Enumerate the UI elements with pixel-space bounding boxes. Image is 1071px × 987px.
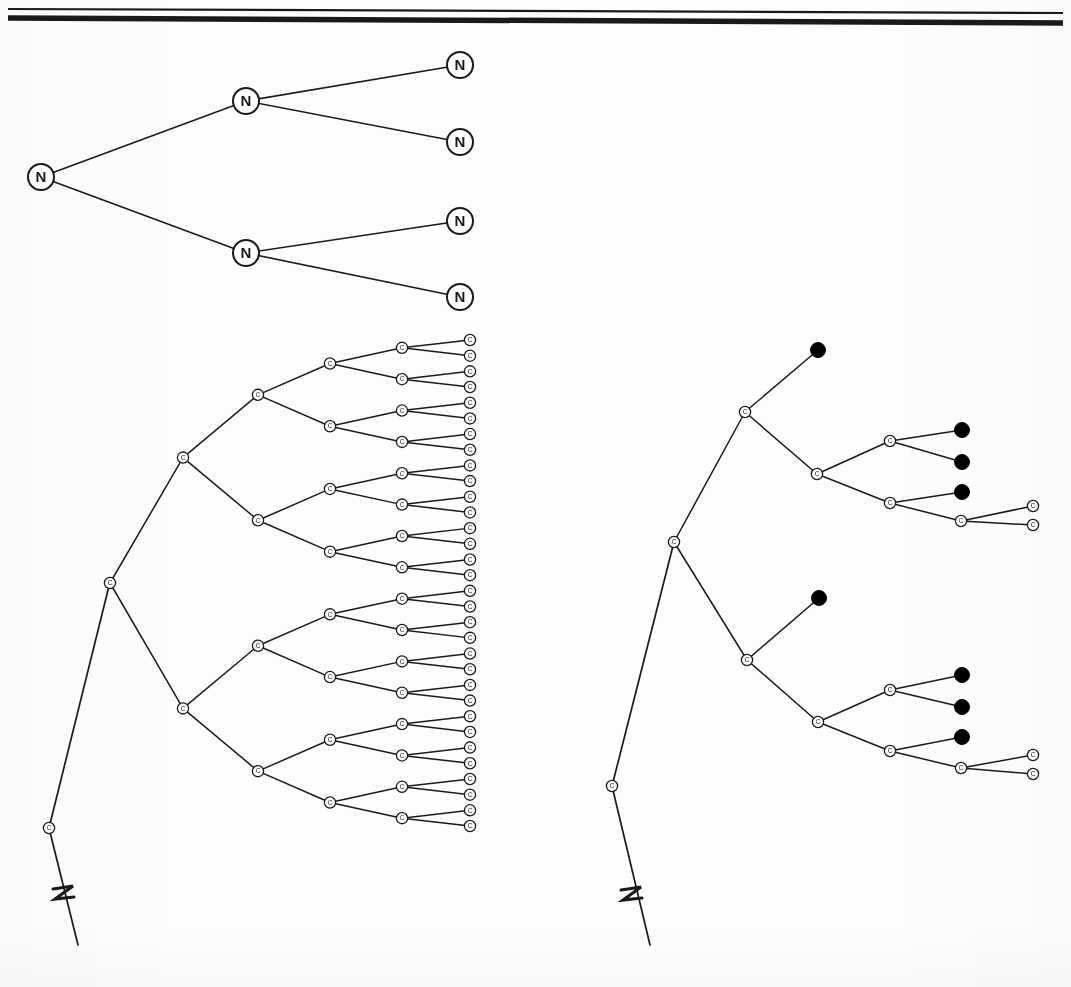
c-tree-node-label: C	[400, 564, 405, 571]
tree-edge	[402, 599, 470, 607]
c-tree-node-label: C	[256, 517, 261, 524]
tree-edge	[258, 614, 330, 645]
c-tree-node-label: C	[256, 391, 261, 398]
tree-edge	[330, 364, 402, 380]
pruned-tree-node-label: C	[672, 538, 677, 545]
n-tree-node-label: N	[455, 212, 466, 229]
tree-edge	[890, 690, 962, 707]
c-tree-node-label: C	[468, 571, 473, 578]
c-tree-node-label: C	[468, 744, 473, 751]
tree-edge	[258, 395, 330, 426]
pruned-tree-dead-node	[955, 455, 970, 470]
tree-edge	[330, 473, 402, 489]
c-tree-node-label: C	[400, 501, 405, 508]
tree-edge	[183, 708, 258, 771]
tree-edge	[402, 559, 470, 567]
tree-edge	[402, 755, 470, 763]
tree-edge	[890, 430, 962, 441]
c-tree-node-label: C	[400, 752, 405, 759]
tree-edge	[402, 724, 470, 732]
c-tree-node-label: C	[468, 822, 473, 829]
c-tree-node-label: C	[328, 360, 333, 367]
tree-edge	[330, 724, 402, 740]
tree-edge	[402, 685, 470, 693]
pruned-tree-node-label: C	[1031, 502, 1036, 509]
c-tree-node-label: C	[468, 728, 473, 735]
tree-edge	[41, 177, 246, 253]
c-tree-node-label: C	[468, 524, 473, 531]
tree-edge	[890, 492, 962, 503]
c-tree-node-label: C	[400, 626, 405, 633]
c-tree-node-label: C	[468, 775, 473, 782]
tree-edge	[402, 505, 470, 513]
c-tree-node-label: C	[468, 477, 473, 484]
c-tree-node-label: C	[181, 454, 186, 461]
tree-edge	[402, 497, 470, 505]
tree-edge	[402, 818, 470, 826]
tree-edge	[258, 646, 330, 677]
n-tree-node-label: N	[241, 244, 252, 261]
tree-edge	[183, 395, 258, 458]
pruned-tree-dead-node	[811, 343, 826, 358]
tree-edge	[402, 528, 470, 536]
n-tree-node-label: N	[241, 92, 252, 109]
tree-edge	[183, 458, 258, 521]
tree-edge	[818, 722, 890, 751]
c-tree-node-label: C	[328, 422, 333, 429]
tree-trunk	[49, 582, 110, 828]
tree-edge	[330, 599, 402, 615]
c-tree-node-label: C	[328, 611, 333, 618]
tree-edge	[402, 465, 470, 473]
c-tree-node-label: C	[256, 767, 261, 774]
tree-edge	[402, 567, 470, 575]
tree-edge	[402, 379, 470, 387]
figure-page: NNNNNNNCCCCCCCCCCCCCCCCCCCCCCCCCCCCCCCCC…	[0, 0, 1071, 987]
tree-edge	[961, 755, 1033, 768]
c-tree-node-label: C	[468, 430, 473, 437]
tree-edge	[258, 364, 330, 395]
c-tree-node-label: C	[468, 634, 473, 641]
tree-edge	[745, 412, 817, 474]
c-tree-node-label: C	[468, 587, 473, 594]
n-tree-node-label: N	[36, 168, 47, 185]
tree-edge	[330, 614, 402, 630]
tree-edge	[402, 748, 470, 756]
c-tree-node-label: C	[400, 344, 405, 351]
tree-edge	[745, 350, 818, 412]
tree-edge	[402, 536, 470, 544]
c-tree-node-label: C	[400, 689, 405, 696]
pruned-tree-dead-node	[955, 668, 970, 683]
tree-edge	[258, 520, 330, 551]
c-tree-node-label: C	[468, 760, 473, 767]
c-tree-node-label: C	[468, 556, 473, 563]
tree-edge	[890, 675, 962, 690]
tree-edge	[402, 442, 470, 450]
c-tree-node-label: C	[468, 713, 473, 720]
c-tree-node-label: C	[468, 336, 473, 343]
tree-edge	[402, 661, 470, 669]
tree-edge	[402, 411, 470, 419]
tree-edge	[747, 660, 818, 722]
pruned-tree-dead-node	[955, 730, 970, 745]
c-tree-node-label: C	[400, 658, 405, 665]
c-tree-node-label: C	[400, 783, 405, 790]
c-tree-node-label: C	[468, 807, 473, 814]
c-tree-break-node-label: C	[47, 824, 52, 831]
tree-edge	[402, 591, 470, 599]
c-tree-node-label: C	[400, 720, 405, 727]
c-tree-node-label: C	[468, 446, 473, 453]
c-tree-node-label: C	[468, 352, 473, 359]
tree-edge	[330, 552, 402, 568]
c-tree-node-label: C	[468, 791, 473, 798]
tree-edge	[330, 411, 402, 427]
tree-edge	[402, 810, 470, 818]
tree-edge	[330, 740, 402, 756]
pruned-tree-dead-node	[812, 591, 827, 606]
pruned-tree-node-label: C	[888, 499, 893, 506]
c-tree-node-label: C	[468, 618, 473, 625]
c-tree-node-label: C	[400, 470, 405, 477]
tree-edge	[890, 751, 961, 768]
tree-edge	[110, 458, 183, 583]
header-rule-thin	[8, 9, 1063, 13]
c-tree-node-label: C	[328, 673, 333, 680]
